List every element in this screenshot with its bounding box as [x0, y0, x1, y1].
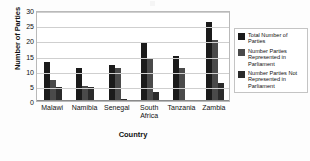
y-tick-label: 25	[26, 23, 34, 30]
y-tick-label: 5	[30, 83, 34, 90]
bar	[88, 87, 94, 101]
gridline	[37, 58, 229, 59]
gridline	[37, 73, 229, 74]
y-axis-ticks: 051015202530	[18, 0, 34, 161]
gridline	[37, 12, 229, 13]
bar-chart: Number of Parties 051015202530 MalawiNam…	[0, 0, 310, 161]
legend-item[interactable]: Number Parties Not Represented in Parlia…	[238, 70, 305, 89]
gridline	[37, 42, 229, 43]
legend-label: Number Parties Not Represented in Parlia…	[248, 70, 305, 89]
y-tick-label: 30	[26, 8, 34, 15]
gridline	[37, 88, 229, 89]
legend-swatch	[238, 49, 245, 56]
x-tick-label: Zambia	[194, 104, 234, 112]
legend-item[interactable]: Number Parties Represented in Parliament	[238, 48, 305, 67]
bar	[218, 83, 224, 101]
legend-swatch	[238, 33, 245, 40]
x-axis-baseline	[37, 100, 229, 101]
legend-label: Total Number of Parties	[248, 32, 305, 45]
legend-item[interactable]: Total Number of Parties	[238, 32, 305, 45]
gridline	[37, 27, 229, 28]
legend-label: Number Parties Represented in Parliament	[248, 48, 305, 67]
chart-legend: Total Number of PartiesNumber Parties Re…	[234, 28, 308, 93]
y-tick-label: 15	[26, 53, 34, 60]
bar	[56, 87, 62, 101]
legend-swatch	[238, 71, 245, 78]
x-axis-ticks: MalawiNamibiaSenegalSouthAfricaTanzaniaZ…	[36, 104, 230, 128]
y-tick-label: 20	[26, 38, 34, 45]
x-axis-title: Country	[36, 130, 230, 139]
scan-artifact	[150, 1, 155, 6]
plot-area	[36, 11, 230, 102]
y-tick-label: 10	[26, 68, 34, 75]
